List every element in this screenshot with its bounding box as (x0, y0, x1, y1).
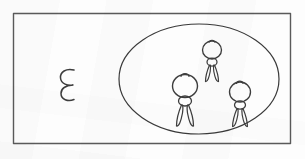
figure-leg-left (233, 109, 239, 127)
stick-figure-right (230, 81, 251, 126)
figure-head (203, 41, 222, 59)
stick-figure-upper (203, 40, 222, 81)
sketch-canvas (0, 0, 305, 159)
oval-enclosure (119, 24, 279, 134)
figure-leg-right (213, 65, 218, 82)
stick-figure-center (173, 74, 198, 127)
figure-leg-right (187, 105, 193, 126)
figure-leg-left (177, 105, 183, 126)
lone-squiggle-figure (60, 69, 74, 100)
figure-head (230, 82, 251, 102)
figure-leg-left (206, 65, 211, 82)
sketch-drawing (0, 0, 305, 159)
figure-head (173, 75, 198, 98)
